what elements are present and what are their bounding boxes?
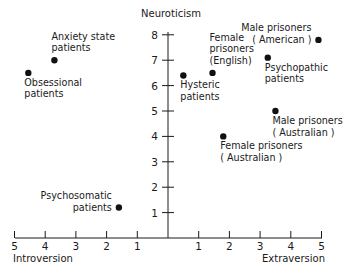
y-tick-label: 1	[151, 207, 158, 219]
data-point-group: Anxiety statepatients	[51, 31, 115, 64]
data-point-label: ( Australian )	[220, 152, 282, 163]
x-tick-label: 2	[226, 240, 233, 252]
data-point-label: Female	[210, 32, 245, 43]
y-axis-title: Neuroticism	[141, 8, 201, 19]
x-tick-label: 3	[73, 240, 80, 252]
x-tick-label: 4	[287, 240, 294, 252]
data-point-marker	[51, 57, 57, 63]
data-point-marker	[265, 54, 271, 60]
data-point-group: Psychosomaticpatients	[41, 190, 123, 213]
x-tick-label: 4	[42, 240, 49, 252]
x-tick-label: 5	[318, 240, 325, 252]
data-point-label: (English)	[210, 55, 252, 66]
y-tick-label: 7	[151, 54, 158, 66]
y-tick-label: 8	[151, 29, 158, 41]
x-tick-label: 1	[195, 240, 202, 252]
data-point-label: patients	[24, 88, 63, 99]
data-point-group: Obsessionalpatients	[24, 70, 82, 100]
y-tick-label: 4	[151, 130, 158, 142]
data-point-marker	[116, 204, 122, 210]
x-axis-title-left: Introversion	[13, 253, 73, 264]
x-axis-title-right: Extraversion	[262, 253, 325, 264]
data-point-label: Male prisoners	[272, 115, 342, 126]
y-tick-label: 5	[151, 105, 158, 117]
x-tick-label: 3	[257, 240, 264, 252]
data-point-marker	[315, 37, 321, 43]
x-tick-label: 5	[11, 240, 18, 252]
data-point-label: patients	[51, 42, 90, 53]
y-axis-ticks: 12345678	[151, 29, 174, 219]
y-tick-label: 3	[151, 156, 158, 168]
data-point-label: patients	[265, 73, 304, 84]
data-point-marker	[180, 72, 186, 78]
data-point-label: Obsessional	[24, 77, 82, 88]
data-point-label: Anxiety state	[51, 31, 115, 42]
data-point-group: Male prisoners( Australian )	[272, 108, 342, 138]
data-point-marker	[209, 70, 215, 76]
personality-scatter-chart: 5432112345 12345678 Neuroticism Introver…	[0, 0, 345, 276]
data-point-label: Psychosomatic	[41, 190, 112, 201]
y-tick-label: 2	[151, 181, 158, 193]
x-tick-label: 2	[103, 240, 110, 252]
y-tick-label: 6	[151, 80, 158, 92]
data-point-group: Male prisoners( American )	[241, 22, 321, 45]
data-point-label: Psychopathic	[265, 62, 328, 73]
data-point-group: Female prisoners( Australian )	[220, 133, 302, 163]
data-point-label: patients	[180, 91, 219, 102]
data-point-group: Hystericpatients	[180, 72, 220, 102]
data-point-group: Femaleprisoners(English)	[209, 32, 254, 76]
data-point-label: ( Australian )	[272, 127, 334, 138]
data-point-marker	[25, 70, 31, 76]
data-point-label: Female prisoners	[220, 140, 302, 151]
data-point-label: ( American )	[252, 34, 311, 45]
data-point-label: Male prisoners	[241, 22, 311, 33]
data-point-label: prisoners	[210, 43, 255, 54]
data-point-marker	[272, 108, 278, 114]
x-tick-label: 1	[134, 240, 141, 252]
data-point-label: Hysteric	[180, 79, 219, 90]
data-point-marker	[220, 133, 226, 139]
data-point-group: Psychopathicpatients	[265, 54, 328, 84]
data-point-label: patients	[73, 202, 112, 213]
data-points: ObsessionalpatientsAnxiety statepatients…	[24, 22, 342, 212]
